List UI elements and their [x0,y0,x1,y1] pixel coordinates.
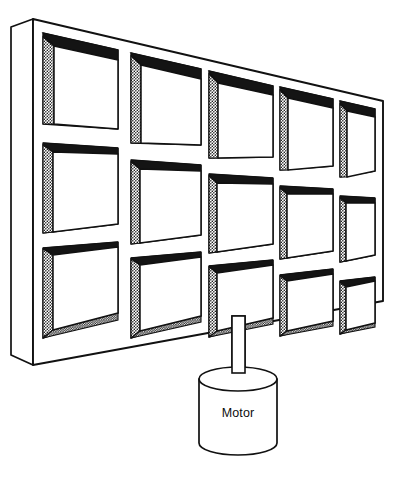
motor-label: Motor [222,406,254,420]
cell-opening [140,169,201,243]
panel-cell[interactable] [340,196,375,262]
panel-cell[interactable] [280,269,333,336]
panel-cell[interactable] [280,186,333,259]
cell-left-inner-face [131,162,140,244]
cell-left-inner-face [43,37,54,124]
cell-opening [347,111,375,177]
cell-left-inner-face [209,176,217,253]
cell-opening [53,152,118,232]
cell-left-inner-face [209,267,217,337]
cell-left-inner-face [43,249,53,338]
cell-opening [218,83,273,158]
cell-left-inner-face [131,56,141,143]
panel-cell[interactable] [209,174,273,253]
panel-cell[interactable] [43,143,118,233]
technical-diagram: Motor [0,0,394,478]
cell-opening [287,274,333,331]
cell-opening [217,183,273,252]
cell-left-inner-face [209,74,218,158]
panel-cell[interactable] [209,71,273,158]
panel-left-side-face [11,19,33,365]
cell-opening [54,46,118,129]
panel-cell[interactable] [280,87,333,170]
cell-opening [346,203,375,261]
panel-cell[interactable] [340,101,375,177]
cell-left-inner-face [43,145,53,233]
cell-left-inner-face [280,188,287,259]
perforated-panel[interactable] [11,19,383,365]
cell-opening [141,65,201,145]
cell-opening [288,98,333,170]
cell-left-inner-face [340,282,346,334]
cell-left-inner-face [340,104,347,177]
panel-cell[interactable] [131,53,201,145]
diagram-canvas: Motor [0,0,394,478]
cell-left-inner-face [131,259,140,338]
cell-left-inner-face [280,90,288,170]
cell-left-inner-face [280,276,287,336]
cell-left-inner-face [340,198,346,262]
panel-cell[interactable] [131,160,201,244]
cell-opening [287,194,333,258]
panel-cell[interactable] [340,277,375,334]
panel-cell[interactable] [43,33,118,129]
shaft-over-rim [232,316,245,373]
cell-opening [346,281,375,330]
